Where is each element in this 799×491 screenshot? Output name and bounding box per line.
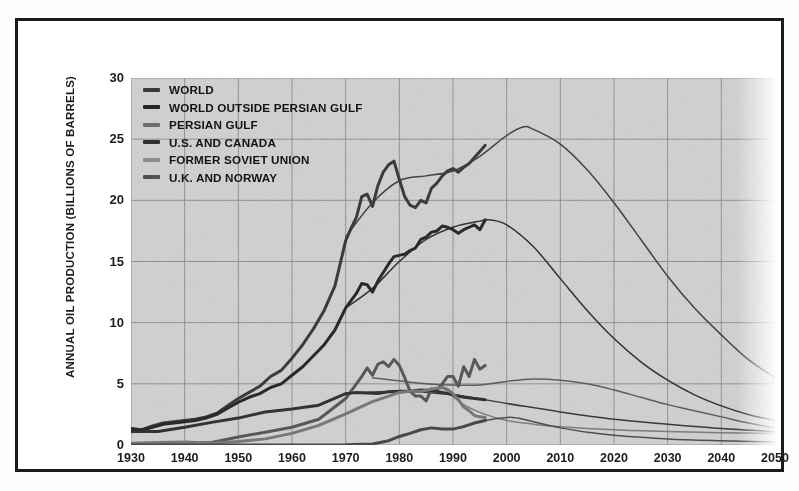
legend-item-5[interactable]: U.K. AND NORWAY	[143, 169, 363, 187]
x-tick-label: 1980	[376, 451, 422, 465]
y-tick-label: 10	[90, 315, 124, 330]
legend-item-4[interactable]: FORMER SOVIET UNION	[143, 151, 363, 169]
x-axis-ticks: 1930194019501960197019801990200020102020…	[131, 451, 775, 475]
y-tick-label: 25	[90, 131, 124, 146]
series-history-4	[131, 388, 485, 444]
legend-label: PERSIAN GULF	[169, 118, 258, 131]
x-tick-label: 1940	[162, 451, 208, 465]
y-tick-label: 5	[90, 376, 124, 391]
series-history-2	[131, 359, 485, 444]
y-axis-title: ANNUAL OIL PRODUCTION (BILLIONS OF BARRE…	[64, 27, 76, 427]
y-tick-label: 0	[90, 437, 124, 452]
x-tick-label: 1970	[323, 451, 369, 465]
y-tick-label: 15	[90, 254, 124, 269]
x-tick-label: 2040	[698, 451, 744, 465]
y-axis-ticks: 051015202530	[84, 78, 124, 445]
series-history-1	[131, 220, 485, 430]
x-tick-label: 1930	[108, 451, 154, 465]
legend-swatch-icon	[143, 140, 160, 144]
legend-swatch-icon	[143, 175, 160, 179]
legend-swatch-icon	[143, 158, 160, 162]
series-history-3	[131, 390, 485, 432]
y-tick-label: 30	[90, 70, 124, 85]
x-tick-label: 2030	[645, 451, 691, 465]
x-tick-label: 2050	[752, 451, 798, 465]
legend-swatch-icon	[143, 105, 160, 109]
legend-label: WORLD OUTSIDE PERSIAN GULF	[169, 101, 363, 114]
x-tick-label: 2000	[484, 451, 530, 465]
x-tick-label: 1950	[215, 451, 261, 465]
x-tick-label: 1990	[430, 451, 476, 465]
chart-legend: WORLDWORLD OUTSIDE PERSIAN GULFPERSIAN G…	[143, 81, 363, 186]
series-projection-4	[442, 388, 775, 434]
legend-label: U.S. AND CANADA	[169, 136, 276, 149]
legend-item-1[interactable]: WORLD OUTSIDE PERSIAN GULF	[143, 99, 363, 117]
legend-label: WORLD	[169, 83, 214, 96]
legend-item-0[interactable]: WORLD	[143, 81, 363, 99]
legend-swatch-icon	[143, 88, 160, 92]
legend-item-3[interactable]: U.S. AND CANADA	[143, 134, 363, 152]
y-tick-label: 20	[90, 192, 124, 207]
legend-item-2[interactable]: PERSIAN GULF	[143, 116, 363, 134]
legend-swatch-icon	[143, 123, 160, 127]
x-tick-label: 2020	[591, 451, 637, 465]
legend-label: U.K. AND NORWAY	[169, 171, 277, 184]
x-tick-label: 2010	[537, 451, 583, 465]
legend-label: FORMER SOVIET UNION	[169, 153, 310, 166]
series-history-0	[131, 145, 485, 429]
figure: ANNUAL OIL PRODUCTION (BILLIONS OF BARRE…	[0, 0, 799, 491]
x-tick-label: 1960	[269, 451, 315, 465]
chart-frame: ANNUAL OIL PRODUCTION (BILLIONS OF BARRE…	[15, 18, 784, 472]
